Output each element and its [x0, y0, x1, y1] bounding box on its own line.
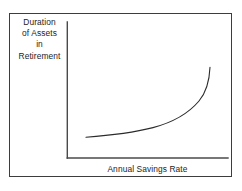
figure-container: Duration of Assets in Retirement Annual … — [0, 0, 242, 191]
plot-area — [0, 0, 242, 191]
data-curve-duration-vs-savings — [86, 67, 210, 137]
x-axis-label: Annual Savings Rate — [67, 164, 228, 174]
